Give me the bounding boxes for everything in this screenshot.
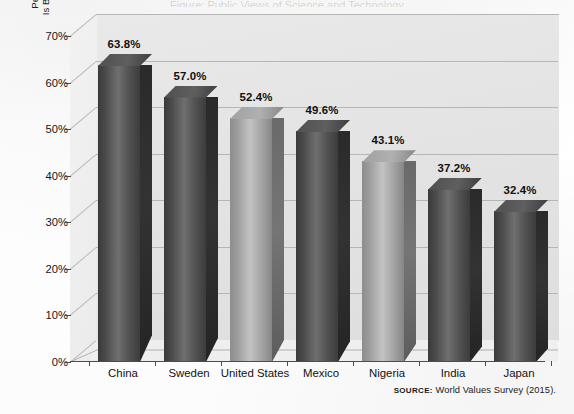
y-tick-label: 60% xyxy=(24,77,68,89)
y-axis-tick-labels: 0%10%20%30%40%50%60%70% xyxy=(10,0,68,414)
bar-value-label: 37.2% xyxy=(438,162,471,174)
bar-mexico[interactable] xyxy=(296,131,338,362)
bar-side-face xyxy=(272,118,284,362)
x-tick-mark xyxy=(551,361,552,366)
y-tick-mark xyxy=(65,129,71,130)
bar-front-face xyxy=(428,189,470,362)
y-tick-label: 20% xyxy=(24,263,68,275)
y-tick-mark xyxy=(65,269,71,270)
bar-japan[interactable] xyxy=(494,211,536,362)
bar-sweden[interactable] xyxy=(164,97,206,362)
bar-nigeria[interactable] xyxy=(362,161,404,362)
y-tick-label: 40% xyxy=(24,170,68,182)
source-note: SOURCE: World Values Survey (2015). xyxy=(394,385,556,395)
y-tick-label: 0% xyxy=(24,356,68,368)
bar-side-face xyxy=(536,211,548,362)
x-tick-mark xyxy=(419,361,420,366)
bar-front-face xyxy=(494,211,536,362)
x-tick-mark xyxy=(287,361,288,366)
cropped-title-remnant: Figure: Public Views of Science and Tech… xyxy=(0,0,574,7)
bar-india[interactable] xyxy=(428,189,470,362)
plot-area: 63.8%57.0%52.4%49.6%43.1%37.2%32.4% xyxy=(70,14,558,362)
figure-container: Figure: Public Views of Science and Tech… xyxy=(0,0,574,414)
source-label: SOURCE: xyxy=(394,386,433,395)
bar-front-face xyxy=(164,97,206,362)
y-tick-label: 10% xyxy=(24,309,68,321)
bar-side-face xyxy=(338,131,350,362)
bar-china[interactable] xyxy=(98,65,140,362)
bar-side-face xyxy=(470,189,482,362)
bar-front-face xyxy=(230,118,272,362)
gridline xyxy=(96,14,558,15)
x-tick-mark xyxy=(221,361,222,366)
bar-value-label: 52.4% xyxy=(240,91,273,103)
y-tick-mark xyxy=(65,36,71,37)
bar-value-label: 57.0% xyxy=(174,70,207,82)
gridline xyxy=(96,61,558,62)
y-tick-label: 50% xyxy=(24,123,68,135)
bar-side-face xyxy=(140,65,152,362)
y-tick-label: 30% xyxy=(24,216,68,228)
x-axis-line xyxy=(70,361,545,362)
y-tick-mark xyxy=(65,362,71,363)
x-tick-mark xyxy=(155,361,156,366)
y-tick-mark xyxy=(65,315,71,316)
bar-front-face xyxy=(362,161,404,362)
bar-front-face xyxy=(98,65,140,362)
bar-value-label: 49.6% xyxy=(306,104,339,116)
y-tick-mark xyxy=(65,176,71,177)
x-tick-mark xyxy=(89,361,90,366)
bar-united-states[interactable] xyxy=(230,118,272,362)
x-tick-mark xyxy=(353,361,354,366)
bar-value-label: 32.4% xyxy=(504,184,537,196)
bar-front-face xyxy=(296,131,338,362)
source-text: World Values Survey (2015). xyxy=(436,385,557,395)
x-tick-mark xyxy=(485,361,486,366)
y-tick-mark xyxy=(65,83,71,84)
y-tick-mark xyxy=(65,222,71,223)
bar-side-face xyxy=(206,97,218,362)
bar-side-face xyxy=(404,161,416,362)
bar-value-label: 43.1% xyxy=(372,134,405,146)
bar-value-label: 63.8% xyxy=(108,38,141,50)
y-tick-label: 70% xyxy=(24,30,68,42)
x-category-label: Japan xyxy=(476,367,562,381)
